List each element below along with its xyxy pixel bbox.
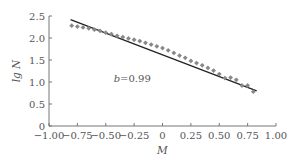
x-tick-label: 1.00 [265,130,287,141]
data-point [183,55,188,60]
y-tick-label: 1.0 [29,77,45,88]
data-point [143,40,148,45]
x-tick-label: −0.75 [62,130,93,141]
data-point [228,75,233,80]
x-tick-label: 0 [159,130,165,141]
data-point [132,37,137,42]
y-tick-label: 2.5 [29,11,45,22]
y-tick-label: 0.5 [29,99,45,110]
x-axis-title: M [156,144,168,156]
data-point [171,51,176,56]
annotation-b-value: b=0.99 [114,73,151,84]
data-point [149,42,154,47]
chart-container: 00.51.01.52.02.5 −1.00−0.75−0.50−0.2500.… [0,0,301,164]
data-point [75,24,80,29]
y-axis-title: lg N [10,59,22,82]
data-point [200,63,205,68]
data-point [126,36,131,41]
data-point [81,25,86,30]
x-tick-label: 0.75 [236,130,258,141]
x-tick-label: 0.50 [208,130,230,141]
data-point [188,58,193,63]
data-point [154,44,159,49]
data-point [69,23,74,28]
data-point [211,68,216,73]
y-axis: 00.51.01.52.02.5 [29,11,52,132]
data-point [103,30,108,35]
y-tick-label: 2.0 [29,33,45,44]
data-points [69,23,255,94]
y-tick-label: 1.5 [29,55,45,66]
data-point [206,66,211,71]
x-tick-label: −0.25 [119,130,150,141]
data-point [166,48,171,53]
x-tick-label: −0.50 [90,130,121,141]
data-point [98,29,103,34]
data-point [194,61,199,66]
data-point [234,77,239,82]
x-tick-label: −1.00 [34,130,65,141]
x-axis: −1.00−0.75−0.50−0.2500.250.500.751.00 [34,123,287,141]
data-point [137,39,142,44]
data-point [177,53,182,58]
data-point [160,46,165,51]
x-tick-label: 0.25 [180,130,202,141]
